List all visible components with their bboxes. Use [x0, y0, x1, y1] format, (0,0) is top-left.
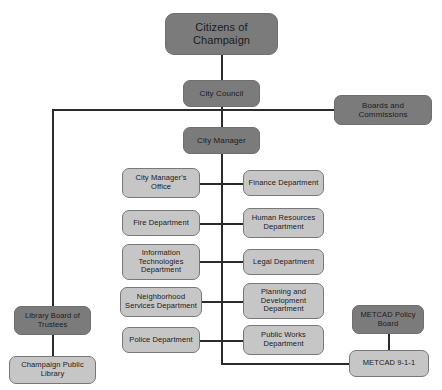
node-label-line-2: Trustees — [19, 321, 86, 330]
node-label: Information Technologies Department — [127, 249, 195, 276]
node-label: Public Works Department — [248, 331, 319, 349]
edge-spine-to-neighborhood-services — [199, 301, 222, 303]
node-label: Planning and Development Department — [248, 288, 319, 315]
edge-spine-to-legal — [221, 261, 244, 263]
node-label: Champaign Public Library — [14, 361, 91, 379]
node-label-line-2: Services Department — [125, 302, 197, 311]
node-label-line-3: Department — [127, 266, 195, 275]
node-label: Police Department — [127, 336, 195, 345]
edge-spine-to-city-managers-office — [199, 183, 222, 185]
edge-spine-to-fire — [199, 223, 222, 225]
node-label-line-2: Board — [357, 320, 419, 329]
edge-council-to-library-vertical — [52, 109, 54, 306]
node-label: City Manager — [188, 136, 255, 145]
node-label-line-2: Department — [248, 340, 319, 349]
node-neighborhood-services-department[interactable]: Neighborhood Services Department — [120, 287, 202, 317]
node-metcad-policy-board[interactable]: METCAD Policy Board — [352, 305, 424, 334]
edge-citizens-to-council — [221, 54, 223, 80]
node-metcad-911[interactable]: METCAD 9-1-1 — [349, 350, 429, 377]
edge-spine-to-planning-development — [221, 301, 244, 303]
node-label-line-3: Department — [248, 305, 319, 314]
node-finance-department[interactable]: Finance Department — [243, 170, 324, 196]
node-label: METCAD 9-1-1 — [354, 359, 424, 368]
node-city-managers-office[interactable]: City Manager's Office — [122, 168, 200, 198]
node-label: Fire Department — [127, 219, 195, 228]
node-label: City Council — [188, 89, 255, 98]
node-label-line-2: Department — [248, 223, 319, 232]
node-human-resources-department[interactable]: Human Resources Department — [243, 208, 324, 238]
node-label: Legal Department — [248, 258, 319, 267]
edge-spine-to-finance — [221, 183, 244, 185]
node-label: Human Resources Department — [248, 214, 319, 232]
node-city-council[interactable]: City Council — [183, 80, 260, 107]
node-label: Library Board of Trustees — [19, 312, 86, 330]
node-label-line-2: Office — [127, 183, 195, 192]
edge-spine-to-information-technologies — [199, 261, 222, 263]
node-label: Neighborhood Services Department — [125, 293, 197, 311]
edge-spine-to-metcad-911 — [221, 363, 358, 365]
edge-metcad-board-to-metcad-911 — [388, 333, 390, 351]
node-label-line-2: Commissions — [339, 110, 427, 119]
node-planning-development-department[interactable]: Planning and Development Department — [243, 283, 324, 319]
node-label: Citizens of Champaign — [170, 21, 273, 47]
node-label-line-1: Boards and — [339, 101, 427, 110]
node-information-technologies-department[interactable]: Information Technologies Department — [122, 244, 200, 280]
node-label: METCAD Policy Board — [357, 311, 419, 329]
node-library-board-of-trustees[interactable]: Library Board of Trustees — [14, 306, 91, 335]
org-chart-canvas: Citizens of Champaign City Council Board… — [0, 0, 442, 390]
node-label: City Manager's Office — [127, 174, 195, 192]
edge-spine-to-police — [199, 340, 222, 342]
node-label: Boards and Commissions — [339, 101, 427, 120]
node-champaign-public-library[interactable]: Champaign Public Library — [9, 356, 96, 384]
node-boards-and-commissions[interactable]: Boards and Commissions — [334, 95, 432, 125]
node-label: Finance Department — [248, 179, 319, 188]
node-public-works-department[interactable]: Public Works Department — [243, 325, 324, 355]
node-fire-department[interactable]: Fire Department — [122, 210, 200, 236]
edge-library-board-to-library — [52, 335, 54, 356]
edge-council-to-library-horizontal — [52, 109, 222, 111]
node-police-department[interactable]: Police Department — [122, 327, 200, 353]
edge-spine-to-public-works — [221, 340, 244, 342]
node-city-manager[interactable]: City Manager — [183, 127, 260, 154]
node-label-line-2: Library — [14, 370, 91, 379]
edge-spine-to-human-resources — [221, 223, 244, 225]
edge-council-to-boards — [221, 109, 336, 111]
node-citizens-of-champaign[interactable]: Citizens of Champaign — [165, 13, 278, 55]
node-legal-department[interactable]: Legal Department — [243, 249, 324, 275]
